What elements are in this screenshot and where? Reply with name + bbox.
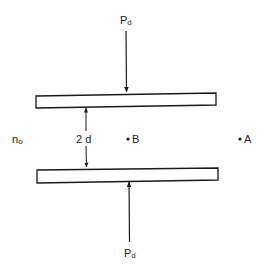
top-plate — [36, 93, 216, 108]
top-force-label: Pd — [120, 14, 132, 27]
gap-arrow-down — [86, 146, 87, 167]
parallel-plate-diagram: Pd 2 d no B A Pd — [0, 0, 267, 272]
point-a-label: A — [244, 133, 252, 145]
point-a-dot — [238, 137, 241, 140]
bottom-force-label: Pd — [124, 247, 136, 260]
bottom-plate — [37, 168, 218, 183]
top-force-arrow — [126, 31, 127, 92]
point-b-label: B — [132, 133, 139, 145]
medium-label: no — [12, 133, 23, 146]
bottom-force-arrow — [129, 182, 130, 242]
gap-label: 2 d — [76, 133, 91, 145]
point-b-dot — [126, 137, 129, 140]
